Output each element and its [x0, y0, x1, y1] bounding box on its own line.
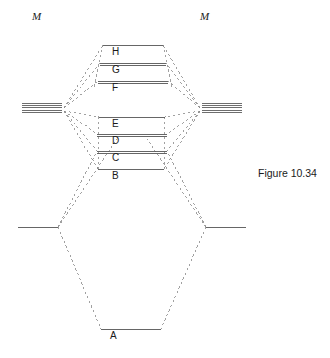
connector-right-ao-to-F	[168, 81, 200, 108]
figure-caption: Figure 10.34	[258, 167, 317, 179]
atom-label-right: M	[200, 10, 209, 22]
connector-envelope-right-lower	[164, 117, 165, 169]
mo-diagram-figure: M M Figure 10.34 HGFEDCBA	[0, 0, 330, 358]
connector-right-ao-to-G	[166, 63, 200, 108]
connector-envelope-left-lower	[98, 117, 99, 169]
connector-left-ao-to-C	[64, 111, 97, 151]
mo-label-C: C	[112, 153, 119, 163]
mo-label-F: F	[112, 83, 118, 93]
connector-right-ao-to-B	[164, 111, 200, 169]
connector-right-ligand-to-A	[161, 227, 206, 329]
connector-left-ao-to-E	[64, 111, 99, 117]
mo-label-E: E	[112, 119, 119, 129]
mo-label-D: D	[112, 136, 119, 146]
mo-label-G: G	[112, 65, 120, 75]
atom-label-left: M	[32, 10, 41, 22]
mo-label-H: H	[112, 47, 119, 57]
connector-left-ao-to-B	[64, 111, 98, 169]
connector-right-ligand-to-E	[147, 139, 206, 227]
connector-right-ao-to-C	[167, 111, 200, 151]
connector-left-ao-to-F	[64, 81, 98, 108]
mo-diagram-canvas	[0, 0, 330, 358]
connector-left-ligand-to-C	[58, 151, 97, 227]
connector-right-ao-to-E	[165, 111, 200, 117]
connector-left-ao-to-H	[64, 45, 103, 108]
connector-right-ligand-to-C	[167, 151, 206, 227]
molecular-orbital-lines-group	[97, 45, 168, 329]
atomic-orbital-lines-group	[18, 103, 246, 227]
connector-right-ao-to-H	[163, 45, 200, 108]
connector-lines-group	[58, 45, 206, 329]
mo-label-A: A	[110, 331, 117, 341]
connector-left-ligand-to-E	[58, 139, 117, 227]
mo-label-B: B	[112, 171, 119, 181]
connector-left-ligand-to-A	[58, 227, 101, 329]
